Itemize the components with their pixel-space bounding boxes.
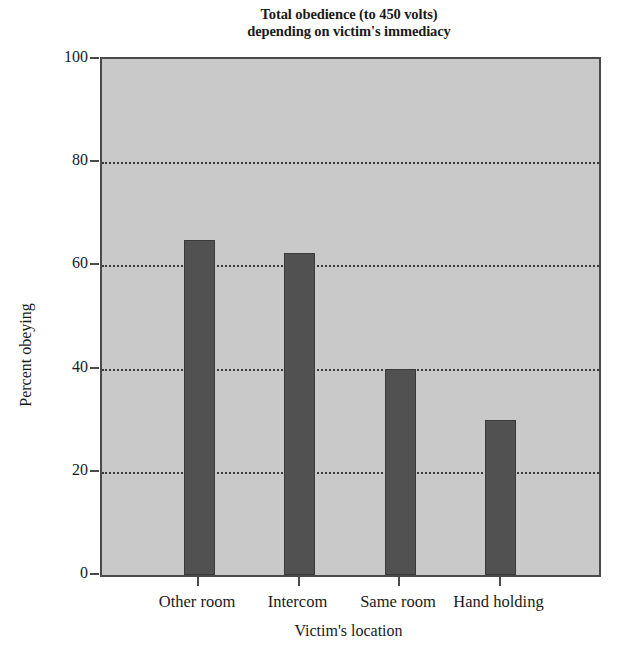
x-axis-tick-marks (100, 575, 597, 589)
bar (385, 369, 416, 575)
x-axis-tick-mark (499, 575, 501, 586)
y-axis-tick-mark (90, 470, 99, 472)
gridline (102, 265, 599, 267)
gridline (102, 472, 599, 474)
gridline (102, 369, 599, 371)
y-axis-tick-mark (90, 573, 99, 575)
y-axis-tick-mark (90, 263, 99, 265)
gridline (102, 162, 599, 164)
y-axis-tick-marks (0, 57, 100, 573)
chart-title-line-1: Total obedience (to 450 volts) (100, 6, 598, 23)
bar (284, 253, 315, 576)
x-axis-tick-labels: Other roomIntercomSame roomHand holding (100, 592, 597, 616)
chart-title-line-2: depending on victim's immediacy (100, 23, 598, 40)
x-axis-tick-label: Same room (360, 592, 436, 612)
x-axis-tick-label: Other room (159, 592, 236, 612)
x-axis-tick-label: Intercom (268, 592, 328, 612)
y-axis-tick-mark (90, 57, 99, 59)
plot-area (100, 57, 601, 577)
plot-inner (102, 59, 599, 575)
y-axis-tick-mark (90, 367, 99, 369)
bar (184, 240, 215, 575)
x-axis-tick-mark (398, 575, 400, 586)
y-axis-tick-mark (90, 160, 99, 162)
x-axis-label: Victim's location (100, 622, 597, 640)
chart-figure: Total obedience (to 450 volts) depending… (0, 0, 635, 664)
x-axis-tick-mark (197, 575, 199, 586)
chart-title: Total obedience (to 450 volts) depending… (100, 6, 598, 40)
x-axis-tick-label: Hand holding (453, 592, 543, 612)
x-axis-tick-mark (298, 575, 300, 586)
bar (485, 420, 516, 575)
